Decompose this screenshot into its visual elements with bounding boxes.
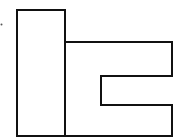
- dot-mark: [1, 24, 3, 26]
- left-column-rectangle: [17, 10, 65, 137]
- diagram-canvas: [0, 0, 187, 137]
- right-bracket-shape: [65, 42, 172, 137]
